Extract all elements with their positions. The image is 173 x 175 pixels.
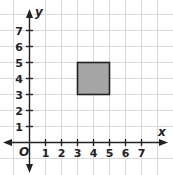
x-tick-2: 2 [58,147,66,160]
x-tick-6: 6 [122,147,130,160]
y-axis-down-arrow-icon [26,164,33,173]
y-axis-label: y [35,5,44,19]
y-tick-7: 7 [15,25,23,38]
y-axis-up-arrow-icon [26,9,33,18]
x-tick-1: 1 [42,147,50,160]
y-tick-4: 4 [15,73,23,86]
x-tick-7: 7 [138,147,146,160]
y-tick-labels: 1 2 3 4 5 6 7 [15,25,23,134]
y-tick-3: 3 [15,89,23,102]
x-tick-3: 3 [74,147,82,160]
origin-label: O [19,145,29,159]
y-tick-6: 6 [15,41,23,54]
y-tick-1: 1 [15,121,23,134]
x-tick-4: 4 [90,147,98,160]
y-tick-5: 5 [15,57,23,70]
x-tick-5: 5 [106,147,114,160]
x-axis-left-arrow-icon [3,139,12,146]
x-axis-right-arrow-icon [159,139,168,146]
x-axis-label: x [157,125,167,139]
coordinate-plane: 1 2 3 4 5 6 7 1 2 3 4 5 6 7 y x O [0,0,173,175]
square-shape [78,63,110,95]
y-tick-2: 2 [15,105,23,118]
